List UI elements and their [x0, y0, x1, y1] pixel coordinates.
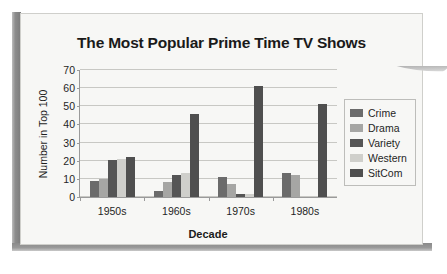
- chart-title: The Most Popular Prime Time TV Shows: [21, 34, 422, 52]
- x-axis-title: Decade: [79, 228, 337, 240]
- bar-variety-1950s[interactable]: [108, 160, 117, 197]
- bar-crime-1970s[interactable]: [218, 177, 227, 197]
- bar-group-1960s: 1960s: [144, 70, 208, 197]
- bar-western-1950s[interactable]: [117, 159, 126, 197]
- bar-variety-1960s[interactable]: [172, 175, 181, 197]
- bar-drama-1980s[interactable]: [291, 175, 300, 197]
- bar-group-1970s: 1970s: [209, 70, 273, 197]
- y-tick-label: 20: [63, 155, 75, 167]
- y-tick-label: 10: [63, 173, 75, 185]
- y-tick-label: 0: [69, 191, 75, 203]
- bar-sitcom-1960s[interactable]: [190, 114, 199, 197]
- bar-variety-1970s[interactable]: [236, 194, 245, 197]
- y-tick-label: 50: [63, 100, 75, 112]
- bar-western-1970s[interactable]: [245, 194, 254, 197]
- chart-card: The Most Popular Prime Time TV Shows Num…: [20, 13, 423, 245]
- chart-legend: CrimeDramaVarietyWesternSitCom: [344, 99, 416, 186]
- legend-swatch-western-icon: [350, 154, 363, 162]
- legend-item-crime[interactable]: Crime: [350, 105, 411, 120]
- bar-crime-1980s[interactable]: [282, 173, 291, 197]
- bar-sitcom-1980s[interactable]: [318, 104, 327, 197]
- bar-drama-1960s[interactable]: [163, 182, 172, 197]
- bar-sitcom-1950s[interactable]: [126, 157, 135, 197]
- legend-label: Variety: [368, 137, 400, 149]
- legend-swatch-sitcom-icon: [350, 169, 363, 177]
- plot-area: 010203040506070 1950s1960s1970s1980s: [79, 70, 337, 198]
- legend-item-variety[interactable]: Variety: [350, 135, 411, 150]
- legend-item-western[interactable]: Western: [350, 150, 411, 165]
- legend-item-sitcom[interactable]: SitCom: [350, 165, 411, 180]
- bar-groups: 1950s1960s1970s1980s: [80, 70, 337, 197]
- x-tick-label: 1960s: [162, 205, 191, 217]
- x-tick-label: 1980s: [291, 205, 320, 217]
- y-tick-label: 40: [63, 118, 75, 130]
- bar-drama-1970s[interactable]: [227, 184, 236, 197]
- bar-western-1960s[interactable]: [181, 173, 190, 197]
- bar-sitcom-1970s[interactable]: [254, 86, 263, 197]
- legend-label: Drama: [368, 122, 400, 134]
- legend-label: SitCom: [368, 167, 402, 179]
- x-tick-label: 1950s: [98, 205, 127, 217]
- legend-item-drama[interactable]: Drama: [350, 120, 411, 135]
- y-axis-title: Number in Top 100: [37, 90, 49, 179]
- legend-swatch-drama-icon: [350, 124, 363, 132]
- x-tick-label: 1970s: [226, 205, 255, 217]
- bar-group-1950s: 1950s: [80, 70, 144, 197]
- legend-label: Western: [368, 152, 407, 164]
- bar-drama-1950s[interactable]: [99, 179, 108, 197]
- y-tick-label: 70: [63, 64, 75, 76]
- bar-crime-1960s[interactable]: [154, 191, 163, 197]
- legend-swatch-variety-icon: [350, 139, 363, 147]
- y-tick-label: 30: [63, 137, 75, 149]
- y-tick-label: 60: [63, 82, 75, 94]
- bar-group-1980s: 1980s: [273, 70, 337, 197]
- legend-swatch-crime-icon: [350, 109, 363, 117]
- legend-label: Crime: [368, 107, 396, 119]
- bar-crime-1950s[interactable]: [90, 181, 99, 197]
- slide-page: The Most Popular Prime Time TV Shows Num…: [0, 0, 447, 274]
- plot-inner: 010203040506070 1950s1960s1970s1980s: [79, 70, 337, 198]
